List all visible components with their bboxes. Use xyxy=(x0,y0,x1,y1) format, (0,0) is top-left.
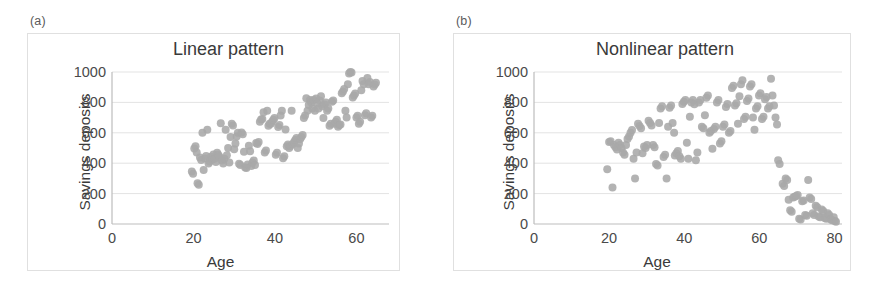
scatter-point xyxy=(225,158,233,166)
scatter-point xyxy=(767,75,775,83)
panel-a-chart-box: Linear pattern Savings deposits Age 0200… xyxy=(27,33,400,271)
scatter-point xyxy=(773,120,781,128)
scatter-point xyxy=(783,176,791,184)
y-tick-label: 400 xyxy=(82,155,106,171)
y-tick-label: 400 xyxy=(504,155,528,171)
scatter-point xyxy=(239,130,247,138)
scatter-point xyxy=(189,170,197,178)
scatter-point xyxy=(262,147,270,155)
panel-a-title: Linear pattern xyxy=(28,39,399,60)
scatter-point xyxy=(246,147,254,155)
scatter-point xyxy=(667,101,675,109)
scatter-point xyxy=(747,80,755,88)
scatter-point xyxy=(343,114,351,122)
scatter-point xyxy=(288,107,296,115)
scatter-point xyxy=(299,131,307,139)
scatter-point xyxy=(661,151,669,159)
scatter-point xyxy=(723,100,731,108)
panel-a-tag: (a) xyxy=(30,14,46,28)
scatter-point xyxy=(684,155,692,163)
scatter-point xyxy=(750,126,758,134)
scatter-point xyxy=(772,114,780,122)
scatter-point xyxy=(223,151,231,159)
scatter-point xyxy=(804,176,812,184)
x-tick-label: 40 xyxy=(267,230,283,246)
scatter-point xyxy=(263,107,271,115)
scatter-point xyxy=(319,114,327,122)
figure-container: (a) Linear pattern Savings deposits Age … xyxy=(0,0,891,297)
scatter-point xyxy=(663,174,671,182)
scatter-point xyxy=(714,96,722,104)
scatter-point xyxy=(195,181,203,189)
scatter-point xyxy=(651,143,659,151)
scatter-point xyxy=(729,82,737,90)
scatter-point xyxy=(368,112,376,120)
scatter-point xyxy=(749,114,757,122)
scatter-point xyxy=(255,138,263,146)
x-tick-label: 0 xyxy=(108,230,116,246)
scatter-point xyxy=(609,184,617,192)
scatter-point xyxy=(669,119,677,127)
scatter-point xyxy=(770,101,778,109)
scatter-point xyxy=(708,145,716,153)
panel-b-plot-area: 02004006008001000020406080 xyxy=(534,72,842,224)
scatter-point xyxy=(356,118,364,126)
y-tick-label: 200 xyxy=(82,185,106,201)
scatter-point xyxy=(732,99,740,107)
scatter-point xyxy=(348,69,356,77)
panel-b-title: Nonlinear pattern xyxy=(454,39,850,60)
scatter-point xyxy=(711,123,719,131)
scatter-point xyxy=(280,152,288,160)
scatter-point xyxy=(769,92,777,100)
scatter-point xyxy=(807,195,815,203)
scatter-point xyxy=(231,139,239,147)
y-tick-label: 1000 xyxy=(496,64,528,80)
scatter-point xyxy=(631,174,639,182)
scatter-point xyxy=(654,161,662,169)
y-tick-label: 600 xyxy=(82,124,106,140)
scatter-point xyxy=(683,139,691,147)
scatter-point xyxy=(788,208,796,216)
scatter-point xyxy=(628,126,636,134)
scatter-point xyxy=(621,151,629,159)
x-tick-label: 20 xyxy=(601,230,617,246)
panel-b-x-axis-label: Age xyxy=(454,253,850,271)
y-tick-label: 1000 xyxy=(74,64,106,80)
y-tick-label: 200 xyxy=(504,185,528,201)
scatter-point xyxy=(726,127,734,135)
scatter-point xyxy=(655,119,663,127)
scatter-point xyxy=(741,113,749,121)
scatter-point xyxy=(329,97,337,105)
scatter-point xyxy=(282,125,290,133)
x-tick-label: 0 xyxy=(530,230,538,246)
scatter-point xyxy=(832,218,840,226)
panel-a-plot-area: 020040060080010000204060 xyxy=(112,72,389,224)
y-tick-label: 800 xyxy=(82,94,106,110)
scatter-point xyxy=(704,92,712,100)
scatter-point xyxy=(670,129,678,137)
scatter-point xyxy=(648,122,656,130)
panel-b-nonlinear: (b) Nonlinear pattern Savings deposits A… xyxy=(446,0,891,297)
scatter-point xyxy=(217,119,225,127)
scatter-point xyxy=(337,120,345,128)
scatter-point xyxy=(251,161,259,169)
scatter-point xyxy=(203,126,211,134)
scatter-point xyxy=(720,120,728,128)
scatter-point xyxy=(344,80,352,88)
y-tick-label: 800 xyxy=(504,94,528,110)
scatter-point xyxy=(324,104,332,112)
scatter-point xyxy=(701,111,709,119)
panel-a-linear: (a) Linear pattern Savings deposits Age … xyxy=(0,0,446,297)
scatter-point xyxy=(677,155,685,163)
scatter-point xyxy=(693,149,701,157)
y-tick-label: 0 xyxy=(98,216,106,232)
scatter-point xyxy=(258,115,266,123)
scatter-point xyxy=(222,126,230,134)
scatter-point xyxy=(717,137,725,145)
y-tick-label: 600 xyxy=(504,124,528,140)
scatter-point xyxy=(341,107,349,115)
scatter-point xyxy=(229,122,237,130)
x-tick-label: 20 xyxy=(185,230,201,246)
y-tick-label: 0 xyxy=(520,216,528,232)
panel-a-x-axis-label: Age xyxy=(28,253,399,271)
